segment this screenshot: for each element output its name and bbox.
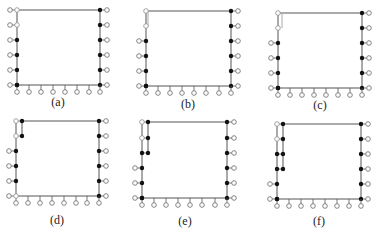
panel-b xyxy=(137,9,241,96)
open-node xyxy=(192,91,197,96)
open-node xyxy=(137,69,142,74)
open-node xyxy=(104,134,109,139)
open-node xyxy=(74,201,79,206)
open-node xyxy=(276,26,281,31)
open-node xyxy=(14,194,19,199)
filled-node xyxy=(14,164,18,168)
filled-node xyxy=(276,41,280,45)
filled-node xyxy=(140,196,144,200)
filled-node xyxy=(276,71,280,75)
open-node xyxy=(276,93,281,98)
open-node xyxy=(144,91,149,96)
filled-node xyxy=(360,11,364,15)
filled-node xyxy=(275,167,279,171)
panel-e xyxy=(133,120,237,208)
open-node xyxy=(27,90,32,95)
open-node xyxy=(105,8,110,13)
open-node xyxy=(366,197,371,202)
open-node xyxy=(75,90,80,95)
open-node xyxy=(14,134,19,139)
filled-node xyxy=(15,38,19,42)
open-node xyxy=(8,38,13,43)
filled-node xyxy=(98,38,102,42)
filled-node xyxy=(276,56,280,60)
filled-node xyxy=(360,71,364,75)
open-node xyxy=(236,24,241,29)
open-node xyxy=(8,8,13,13)
open-node xyxy=(188,203,193,208)
filled-node xyxy=(98,23,102,27)
open-node xyxy=(14,119,19,124)
open-node xyxy=(168,91,173,96)
open-node xyxy=(98,90,103,95)
open-node xyxy=(367,11,372,16)
open-node xyxy=(236,9,241,14)
open-node xyxy=(137,84,142,89)
figure-canvas xyxy=(0,0,376,242)
open-node xyxy=(140,203,145,208)
open-node xyxy=(311,204,316,209)
filled-node xyxy=(15,53,19,57)
open-node xyxy=(336,93,341,98)
open-node xyxy=(38,201,43,206)
open-node xyxy=(133,196,138,201)
open-node xyxy=(8,53,13,58)
filled-node xyxy=(146,120,150,124)
open-node xyxy=(164,203,169,208)
open-node xyxy=(62,201,67,206)
open-node xyxy=(15,90,20,95)
open-node xyxy=(105,23,110,28)
open-node xyxy=(152,203,157,208)
open-node xyxy=(229,91,234,96)
filled-node xyxy=(20,134,24,138)
open-node xyxy=(104,149,109,154)
open-node xyxy=(104,194,109,199)
open-node xyxy=(204,91,209,96)
open-node xyxy=(104,179,109,184)
filled-node xyxy=(97,179,101,183)
open-node xyxy=(367,26,372,31)
panel-d xyxy=(7,119,109,206)
open-node xyxy=(225,203,230,208)
open-node xyxy=(26,201,31,206)
open-node xyxy=(180,91,185,96)
filled-node xyxy=(225,136,229,140)
filled-node xyxy=(359,152,363,156)
open-node xyxy=(8,23,13,28)
open-node xyxy=(312,93,317,98)
open-node xyxy=(236,54,241,59)
open-node xyxy=(85,201,90,206)
panel-label-c: (c) xyxy=(300,98,340,113)
filled-node xyxy=(14,149,18,153)
open-node xyxy=(144,9,149,14)
open-node xyxy=(232,181,237,186)
open-node xyxy=(269,86,274,91)
open-node xyxy=(299,204,304,209)
open-node xyxy=(156,91,161,96)
filled-node xyxy=(97,149,101,153)
open-node xyxy=(359,204,364,209)
open-node xyxy=(232,166,237,171)
filled-node xyxy=(97,119,101,123)
open-node xyxy=(366,182,371,187)
filled-node xyxy=(281,122,285,126)
open-node xyxy=(144,24,149,29)
filled-node xyxy=(225,181,229,185)
open-node xyxy=(7,149,12,154)
open-node xyxy=(287,204,292,209)
open-node xyxy=(236,84,241,89)
open-node xyxy=(276,11,281,16)
filled-node xyxy=(281,152,285,156)
open-node xyxy=(366,167,371,172)
open-node xyxy=(217,91,222,96)
open-node xyxy=(7,179,12,184)
open-node xyxy=(15,8,20,13)
panel-label-b: (b) xyxy=(168,97,208,112)
open-node xyxy=(366,122,371,127)
filled-node xyxy=(359,167,363,171)
open-node xyxy=(232,151,237,156)
filled-node xyxy=(144,69,148,73)
filled-node xyxy=(15,83,19,87)
open-node xyxy=(232,196,237,201)
filled-node xyxy=(225,166,229,170)
